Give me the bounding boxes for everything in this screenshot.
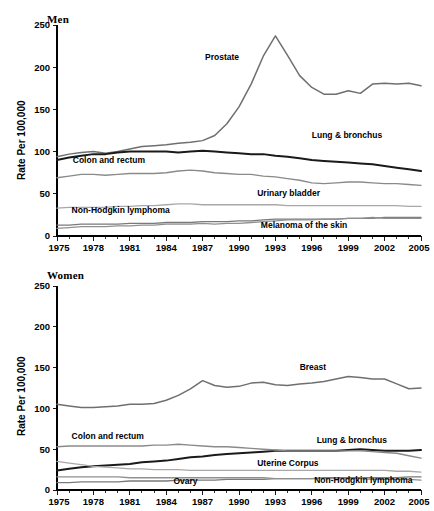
y-tick-label-150: 150: [34, 104, 50, 115]
x-tick-label-1996: 1996: [301, 242, 322, 253]
x-tick-label-1981: 1981: [119, 496, 141, 507]
series-label-melanoma-of-the-skin: Melanoma of the skin: [261, 220, 347, 230]
y-tick-label-100: 100: [34, 146, 50, 157]
y-tick-label-100: 100: [34, 403, 50, 414]
x-tick-label-1975: 1975: [48, 496, 70, 507]
x-tick-label-1978: 1978: [83, 242, 104, 253]
series-label-non-hodgkin-lymphoma: Non-Hodgkin lymphoma: [72, 205, 170, 215]
x-tick-label-1984: 1984: [156, 242, 178, 253]
y-tick-label-200: 200: [34, 62, 50, 73]
series-line-colon-and-rectum: [57, 444, 421, 458]
y-tick-label-50: 50: [39, 444, 50, 455]
series-label-colon-and-rectum: Colon and rectum: [73, 155, 146, 165]
x-tick-label-1987: 1987: [192, 496, 213, 507]
series-label-colon-and-rectum: Colon and rectum: [72, 431, 145, 441]
x-tick-label-2002: 2002: [374, 496, 395, 507]
x-tick-label-1993: 1993: [265, 496, 286, 507]
x-tick-label-1996: 1996: [301, 496, 322, 507]
y-tick-label-200: 200: [34, 321, 50, 332]
series-line-uterine-corpus: [57, 461, 421, 472]
x-tick-label-2005: 2005: [408, 242, 430, 253]
y-tick-label-250: 250: [34, 280, 50, 291]
series-label-uterine-corpus: Uterine Corpus: [257, 458, 319, 468]
x-tick-label-2002: 2002: [374, 242, 395, 253]
panel-women: Women Rate Per 100,000 05010015020025019…: [0, 258, 434, 511]
x-tick-label-1975: 1975: [48, 242, 70, 253]
y-tick-label-50: 50: [39, 188, 50, 199]
x-tick-label-1990: 1990: [228, 496, 249, 507]
y-tick-label-0: 0: [45, 484, 50, 495]
series-label-lung-bronchus: Lung & bronchus: [312, 130, 383, 140]
series-label-urinary-bladder: Urinary bladder: [257, 188, 321, 198]
x-tick-label-2005: 2005: [408, 496, 430, 507]
chart-women: 0501001502002501975197819811984198719901…: [0, 258, 434, 511]
x-tick-label-1999: 1999: [338, 242, 359, 253]
x-tick-label-1990: 1990: [228, 242, 249, 253]
series-line-melanoma-of-the-skin: [57, 217, 421, 228]
x-tick-label-1987: 1987: [192, 242, 213, 253]
series-label-non-hodgkin-lymphoma: Non-Hodgkin lymphoma: [314, 475, 412, 485]
panel-men: Men Rate Per 100,000 0501001502002501975…: [0, 0, 434, 258]
series-label-prostate: Prostate: [205, 52, 239, 62]
x-tick-label-1999: 1999: [338, 496, 359, 507]
series-label-lung-bronchus: Lung & bronchus: [317, 435, 388, 445]
cancer-incidence-trends-figure: Men Rate Per 100,000 0501001502002501975…: [0, 0, 434, 511]
chart-men: 0501001502002501975197819811984198719901…: [0, 0, 434, 258]
series-line-colon-and-rectum: [57, 170, 421, 185]
x-tick-label-1984: 1984: [156, 496, 178, 507]
x-tick-label-1978: 1978: [83, 496, 104, 507]
axis-lines: [57, 286, 421, 490]
y-tick-label-150: 150: [34, 362, 50, 373]
series-line-breast: [57, 377, 421, 408]
x-tick-label-1993: 1993: [265, 242, 286, 253]
x-tick-label-1981: 1981: [119, 242, 141, 253]
y-tick-label-250: 250: [34, 19, 50, 30]
y-tick-label-0: 0: [45, 230, 50, 241]
series-label-breast: Breast: [300, 362, 327, 372]
series-label-ovary: Ovary: [173, 476, 197, 486]
